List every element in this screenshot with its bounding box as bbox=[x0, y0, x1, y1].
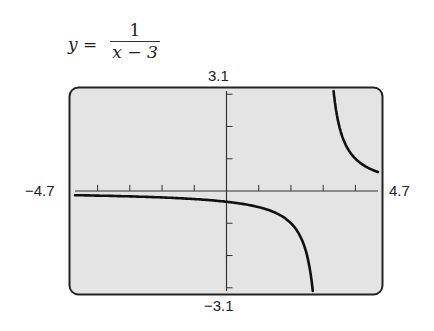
graph-screen bbox=[0, 0, 434, 331]
